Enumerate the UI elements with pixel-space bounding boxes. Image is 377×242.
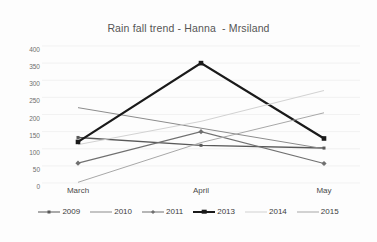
chart-title: Rain fall trend - Hanna - Mrsiland xyxy=(0,22,377,34)
data-point-2009-May[interactable] xyxy=(323,147,326,150)
x-axis-tick-march: March xyxy=(67,186,89,195)
y-axis-tick-150: 150 xyxy=(10,132,40,140)
legend-marker-icon xyxy=(48,210,51,213)
data-point-2009-March[interactable] xyxy=(77,136,80,139)
legend-label-2014: 2014 xyxy=(269,207,287,216)
plot-area xyxy=(42,46,360,183)
x-axis-tick-may: May xyxy=(316,186,331,195)
legend-item-2014[interactable]: 2014 xyxy=(245,207,287,216)
y-axis-tick-300: 300 xyxy=(10,80,40,88)
data-point-2013-April[interactable] xyxy=(199,61,204,66)
legend-swatch-2011 xyxy=(142,207,164,216)
data-point-2009-April[interactable] xyxy=(200,144,203,147)
chart-container: Rain fall trend - Hanna - Mrsiland 40035… xyxy=(0,0,377,242)
legend-swatch-2010 xyxy=(90,207,112,216)
legend-swatch-2009 xyxy=(38,207,60,216)
legend-item-2015[interactable]: 2015 xyxy=(297,207,339,216)
y-axis-tick-400: 400 xyxy=(10,46,40,54)
legend-label-2015: 2015 xyxy=(321,207,339,216)
y-axis-tick-100: 100 xyxy=(10,149,40,157)
data-point-2011-April[interactable] xyxy=(198,129,203,134)
legend-marker-icon xyxy=(202,209,207,214)
legend-label-2009: 2009 xyxy=(62,207,80,216)
y-axis-tick-50: 50 xyxy=(10,166,40,174)
legend-swatch-2015 xyxy=(297,207,319,216)
y-axis: 400350300250200150100500 xyxy=(10,40,40,189)
y-axis-tick-350: 350 xyxy=(10,63,40,71)
legend-item-2010[interactable]: 2010 xyxy=(90,207,132,216)
legend-line-icon xyxy=(245,211,267,212)
data-point-2013-May[interactable] xyxy=(322,136,327,141)
chart-legend: 200920102011201320142015 xyxy=(0,207,377,216)
legend-label-2011: 2011 xyxy=(166,207,183,216)
legend-item-2009[interactable]: 2009 xyxy=(38,207,80,216)
x-axis: MarchAprilMay xyxy=(42,186,360,200)
data-point-2011-May[interactable] xyxy=(321,161,326,166)
y-axis-tick-200: 200 xyxy=(10,115,40,123)
legend-label-2013: 2013 xyxy=(217,207,235,216)
y-axis-tick-0: 0 xyxy=(10,183,40,191)
legend-line-icon xyxy=(297,211,319,212)
legend-swatch-2014 xyxy=(245,207,267,216)
legend-swatch-2013 xyxy=(193,207,215,216)
x-axis-tick-april: April xyxy=(193,186,209,195)
legend-item-2011[interactable]: 2011 xyxy=(142,207,183,216)
data-point-2011-March[interactable] xyxy=(75,161,80,166)
data-point-2013-March[interactable] xyxy=(76,140,81,145)
legend-line-icon xyxy=(90,211,112,212)
legend-label-2010: 2010 xyxy=(114,207,132,216)
legend-marker-icon xyxy=(151,209,155,213)
plot-svg xyxy=(42,46,360,183)
legend-item-2013[interactable]: 2013 xyxy=(193,207,235,216)
y-axis-tick-250: 250 xyxy=(10,97,40,105)
